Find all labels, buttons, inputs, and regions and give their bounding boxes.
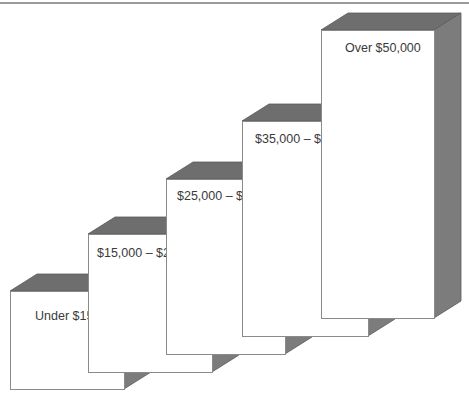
bracket-box: Over $50,000	[321, 13, 461, 319]
box-side-face	[434, 13, 461, 318]
boxes-group: Under $15,000$15,000 – $25,000$25,000 – …	[10, 13, 461, 390]
bracket-label: Over $50,000	[345, 41, 421, 55]
income-bracket-diagram: Under $15,000$15,000 – $25,000$25,000 – …	[0, 0, 469, 399]
box-front-face	[322, 31, 435, 319]
